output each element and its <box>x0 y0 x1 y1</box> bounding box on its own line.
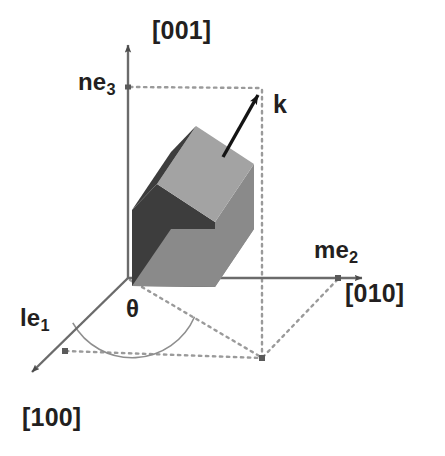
guide-z-tick-to-k-tip <box>130 87 262 88</box>
crystal-axes-diagram <box>0 0 445 456</box>
angle-label-theta: θ <box>126 297 139 321</box>
axis-tick-label-le1: le1 <box>20 306 50 330</box>
guide-projection-to-y-tick <box>263 279 338 357</box>
axis-label-001: [001] <box>152 18 211 43</box>
axis-tick-label-me2: me2 <box>314 238 358 262</box>
axis-label-010: [010] <box>345 281 404 306</box>
guide-x-tick-to-projection <box>66 351 261 358</box>
tick-marker-z <box>125 85 131 90</box>
projection-point-marker <box>259 355 265 361</box>
tick-ne-subscript: 3 <box>106 80 115 98</box>
tick-me-text: me <box>314 236 349 263</box>
tick-le-text: le <box>20 304 40 331</box>
k-vector-arrow <box>223 95 258 157</box>
tick-ne-text: ne <box>78 68 106 95</box>
axis-tick-label-ne3: ne3 <box>78 70 116 94</box>
tick-marker-x <box>62 348 68 354</box>
tick-me-subscript: 2 <box>349 248 358 266</box>
tick-le-subscript: 1 <box>40 316 49 334</box>
guide-origin-to-projection <box>130 280 261 357</box>
axis-label-100: [100] <box>22 405 81 430</box>
wave-vector-label-k: k <box>273 92 287 117</box>
angle-arc-theta <box>73 317 195 358</box>
diagram-canvas: [001] ne3 k me2 [010] le1 θ [100] <box>0 0 445 456</box>
crystal-slab <box>132 126 254 287</box>
tick-marker-y <box>335 275 341 281</box>
